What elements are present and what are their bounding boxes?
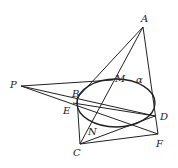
label-P: P	[9, 79, 17, 90]
line-BC	[77, 98, 80, 144]
diagram-svg: A P B E M α D F C N	[0, 0, 178, 168]
label-N: N	[87, 126, 98, 137]
geometry-diagram: A P B E M α D F C N	[0, 0, 178, 168]
label-E: E	[62, 105, 71, 116]
label-A: A	[140, 13, 148, 24]
label-M: M	[114, 73, 126, 84]
line-PM	[21, 80, 113, 86]
line-ED	[73, 103, 155, 116]
label-B: B	[71, 88, 79, 99]
label-C: C	[73, 147, 81, 158]
label-F: F	[155, 138, 164, 149]
label-alpha: α	[136, 74, 143, 85]
line-PD	[21, 86, 155, 116]
label-D: D	[159, 111, 168, 122]
